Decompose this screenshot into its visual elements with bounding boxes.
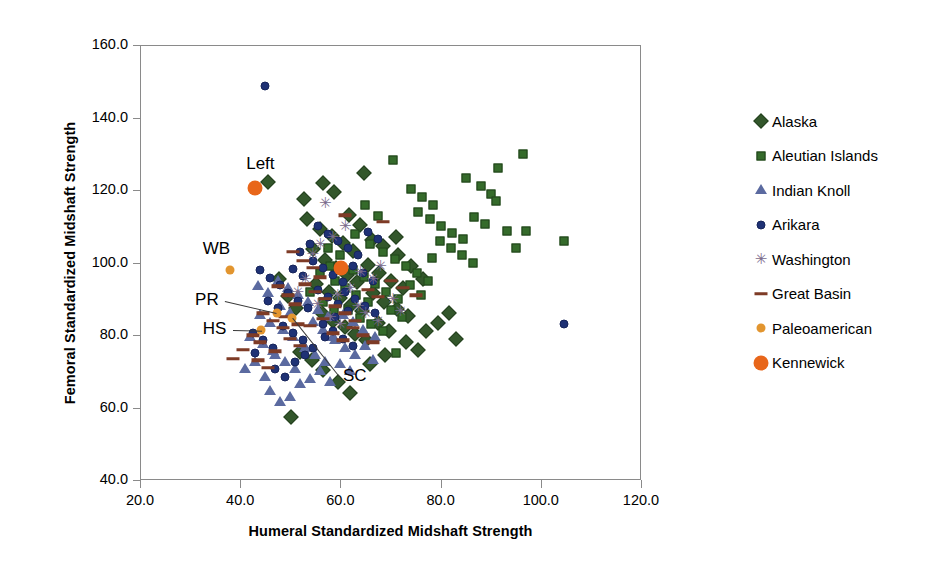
annotation-label-sc: SC <box>343 366 367 386</box>
legend-label: Washington <box>772 251 851 268</box>
data-point-circle <box>757 220 766 229</box>
legend-label: Arikara <box>772 216 820 233</box>
scatter-plot-figure: 40.060.080.0100.0120.0140.0160.020.040.0… <box>0 0 943 562</box>
x-tick-label: 20.0 <box>100 492 180 508</box>
legend-marker-dash-icon <box>750 287 772 301</box>
data-point-dot-large <box>754 355 769 370</box>
x-tick-mark <box>441 480 442 488</box>
legend-label: Paleoamerican <box>772 320 872 337</box>
legend-label: Aleutian Islands <box>772 147 878 164</box>
x-tick-label: 120.0 <box>601 492 681 508</box>
plot-area <box>140 45 641 480</box>
annotation-label-hs: HS <box>203 319 227 339</box>
legend: AlaskaAleutian IslandsIndian KnollArikar… <box>750 104 940 380</box>
x-tick-mark <box>340 480 341 488</box>
x-tick-label: 60.0 <box>300 492 380 508</box>
legend-item-indian-knoll[interactable]: Indian Knoll <box>750 173 940 208</box>
legend-marker-square-icon <box>750 149 772 163</box>
legend-item-kennewick[interactable]: Kennewick <box>750 346 940 381</box>
y-axis-title: Femoral Standardized Midshaft Strength <box>62 33 78 493</box>
legend-marker-dot-large-icon <box>750 356 772 370</box>
legend-label: Indian Knoll <box>772 182 850 199</box>
legend-marker-triangle-icon <box>750 183 772 197</box>
data-point-triangle <box>755 184 767 194</box>
x-tick-label: 100.0 <box>501 492 581 508</box>
data-point-dash <box>755 292 768 296</box>
data-point-diamond <box>753 113 769 129</box>
x-tick-mark <box>541 480 542 488</box>
legend-item-arikara[interactable]: Arikara <box>750 208 940 243</box>
x-tick-label: 40.0 <box>200 492 280 508</box>
legend-label: Great Basin <box>772 285 851 302</box>
legend-item-washington[interactable]: ✳Washington <box>750 242 940 277</box>
y-tick-mark <box>133 408 141 409</box>
annotation-leader-line-hs <box>233 330 262 332</box>
y-tick-mark <box>133 190 141 191</box>
data-point-dot-small <box>757 324 766 333</box>
y-tick-mark <box>133 335 141 336</box>
legend-marker-asterisk-icon: ✳ <box>750 252 772 266</box>
legend-label: Kennewick <box>772 354 845 371</box>
y-tick-mark <box>133 118 141 119</box>
y-tick-mark <box>133 45 141 46</box>
x-tick-mark <box>140 480 141 488</box>
data-point-asterisk: ✳ <box>755 255 768 264</box>
x-tick-label: 80.0 <box>401 492 481 508</box>
y-tick-mark <box>133 263 141 264</box>
legend-marker-diamond-icon <box>750 114 772 128</box>
data-point-square <box>757 151 766 160</box>
annotation-label-pr: PR <box>195 290 219 310</box>
legend-label: Alaska <box>772 113 817 130</box>
legend-item-aleutian-islands[interactable]: Aleutian Islands <box>750 139 940 174</box>
legend-marker-dot-small-icon <box>750 321 772 335</box>
x-tick-mark <box>641 480 642 488</box>
legend-marker-circle-icon <box>750 218 772 232</box>
legend-item-great-basin[interactable]: Great Basin <box>750 277 940 312</box>
annotation-label-wb: WB <box>203 239 230 259</box>
x-axis-title: Humeral Standardized Midshaft Strength <box>140 523 641 539</box>
x-tick-mark <box>240 480 241 488</box>
legend-item-paleoamerican[interactable]: Paleoamerican <box>750 311 940 346</box>
legend-item-alaska[interactable]: Alaska <box>750 104 940 139</box>
annotation-label-left: Left <box>246 154 274 174</box>
